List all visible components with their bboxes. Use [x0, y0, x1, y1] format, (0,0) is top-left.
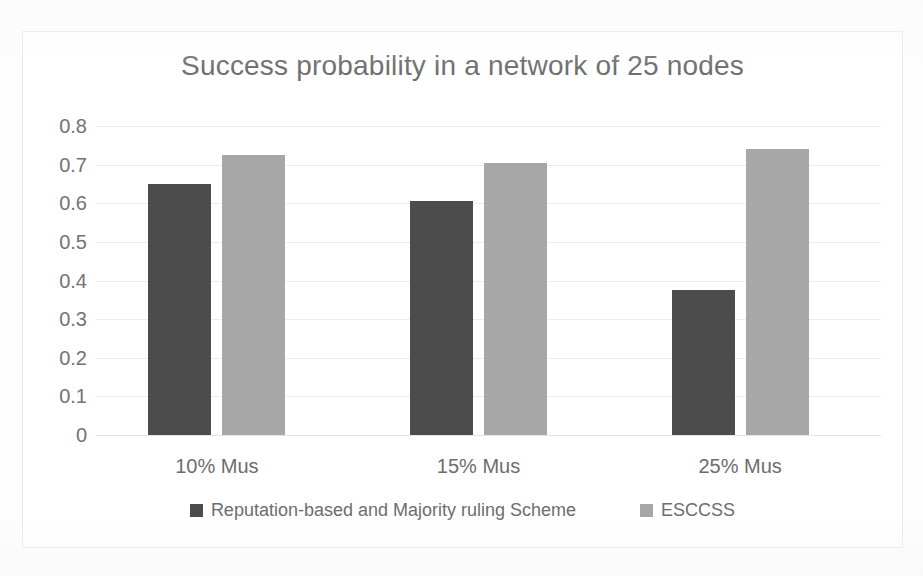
- x-axis-tick-label: 10% Mus: [175, 455, 258, 478]
- gridline: [96, 435, 881, 436]
- scanned-page: Success probability in a network of 25 n…: [0, 0, 923, 576]
- x-axis-tick-label: 25% Mus: [698, 455, 781, 478]
- legend-swatch-icon: [640, 504, 653, 517]
- y-axis-tick-label: 0.1: [59, 385, 87, 408]
- chart-title: Success probability in a network of 25 n…: [23, 50, 902, 82]
- x-axis-tick-label: 15% Mus: [437, 455, 520, 478]
- bar-10-mus-series-0: [148, 184, 211, 435]
- y-axis-tick-label: 0.2: [59, 346, 87, 369]
- chart-legend: Reputation-based and Majority ruling Sch…: [23, 500, 902, 521]
- legend-swatch-icon: [190, 504, 203, 517]
- bar-25-mus-series-0: [672, 290, 735, 435]
- y-axis-tick-label: 0.7: [59, 153, 87, 176]
- y-axis-tick-label: 0.4: [59, 269, 87, 292]
- legend-item-0: Reputation-based and Majority ruling Sch…: [190, 500, 576, 521]
- bar-15-mus-series-1: [484, 163, 547, 435]
- y-axis-tick-label: 0: [76, 424, 87, 447]
- gridline: [96, 126, 881, 127]
- y-axis-tick-label: 0.3: [59, 308, 87, 331]
- bar-10-mus-series-1: [222, 155, 285, 435]
- legend-item-1: ESCCSS: [640, 500, 735, 521]
- y-axis-tick-label: 0.8: [59, 115, 87, 138]
- chart-frame: Success probability in a network of 25 n…: [22, 31, 903, 548]
- legend-label: Reputation-based and Majority ruling Sch…: [211, 500, 576, 521]
- y-axis-tick-label: 0.6: [59, 192, 87, 215]
- bar-25-mus-series-1: [746, 149, 809, 435]
- plot-area: 00.10.20.30.40.50.60.70.810% Mus15% Mus2…: [96, 126, 881, 435]
- y-axis-tick-label: 0.5: [59, 230, 87, 253]
- bar-15-mus-series-0: [410, 201, 473, 435]
- legend-label: ESCCSS: [661, 500, 735, 521]
